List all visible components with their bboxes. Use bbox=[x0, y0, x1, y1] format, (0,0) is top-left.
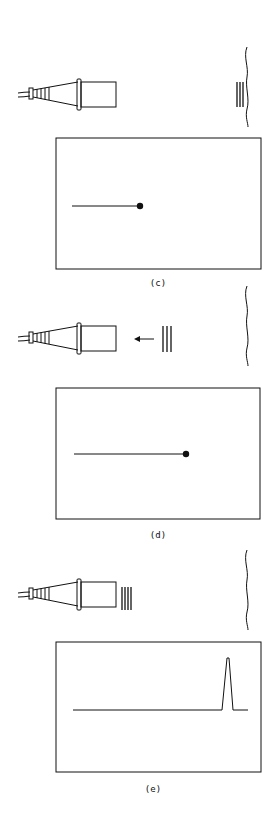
pulse-wave-icon bbox=[237, 82, 243, 107]
display-screen bbox=[56, 642, 261, 772]
transducer-icon bbox=[18, 79, 116, 110]
trace-dot bbox=[137, 203, 143, 209]
reflector-interface bbox=[246, 286, 248, 366]
ultrasound-sequence-diagram: (c) (d) (e) bbox=[0, 0, 279, 826]
reflector-interface bbox=[246, 47, 248, 127]
arrow-left-icon bbox=[134, 336, 154, 342]
panel-label: (e) bbox=[145, 784, 161, 794]
reflector-interface bbox=[246, 550, 248, 630]
pulse-wave-icon bbox=[122, 587, 131, 610]
panel-d: (d) bbox=[18, 286, 260, 540]
transducer-icon bbox=[18, 579, 116, 610]
panel-label: (d) bbox=[150, 530, 166, 540]
panel-c: (c) bbox=[18, 47, 261, 288]
panel-e: (e) bbox=[18, 550, 261, 794]
trace-dot bbox=[183, 451, 189, 457]
echo-spike-trace bbox=[73, 658, 248, 710]
panel-label: (c) bbox=[150, 278, 166, 288]
transducer-icon bbox=[18, 323, 116, 354]
pulse-wave-icon bbox=[163, 326, 171, 352]
display-screen bbox=[56, 138, 261, 269]
